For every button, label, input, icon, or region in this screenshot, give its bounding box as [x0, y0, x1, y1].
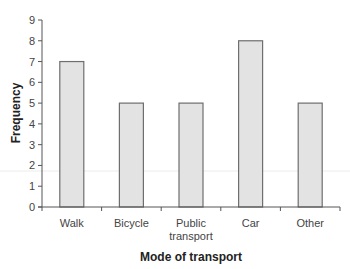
- x-axis-title: Mode of transport: [140, 250, 242, 264]
- y-tick-label: 7: [29, 56, 35, 68]
- x-tick-label: Bicycle: [114, 217, 149, 229]
- bar-walk: [60, 62, 84, 207]
- x-tick-label: Car: [242, 217, 260, 229]
- x-tick-label: transport: [169, 230, 212, 242]
- x-tick-label: Other: [296, 217, 324, 229]
- x-tick-label: Walk: [60, 217, 85, 229]
- y-tick-label: 1: [29, 180, 35, 192]
- bar-other: [298, 103, 322, 207]
- bars-group: [60, 41, 322, 207]
- bar-bicycle: [119, 103, 143, 207]
- y-tick-label: 3: [29, 139, 35, 151]
- bar-car: [239, 41, 263, 207]
- bar-chart: 0123456789 WalkBicyclePublictransportCar…: [0, 0, 350, 269]
- y-tick-label: 5: [29, 97, 35, 109]
- x-axis: WalkBicyclePublictransportCarOther: [38, 207, 340, 242]
- y-axis-title: Frequency: [9, 82, 23, 143]
- y-tick-label: 4: [29, 118, 35, 130]
- y-tick-label: 0: [29, 201, 35, 213]
- x-tick-label: Public: [176, 217, 206, 229]
- y-axis: 0123456789: [29, 14, 42, 213]
- bar-public-transport: [179, 103, 203, 207]
- y-tick-label: 8: [29, 35, 35, 47]
- y-tick-label: 6: [29, 76, 35, 88]
- y-tick-label: 9: [29, 14, 35, 26]
- y-tick-label: 2: [29, 159, 35, 171]
